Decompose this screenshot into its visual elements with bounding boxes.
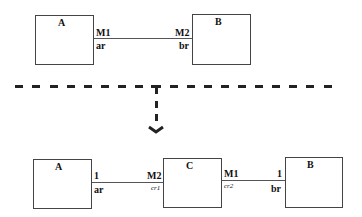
cb-right-multiplicity: 1 — [277, 169, 282, 179]
bottom-class-c-title: C — [186, 160, 193, 171]
bottom-class-box-c: C — [163, 158, 222, 208]
bottom-class-box-b: B — [285, 157, 343, 208]
cb-left-role: cr2 — [224, 183, 233, 190]
bottom-class-box-a: A — [33, 159, 92, 209]
bottom-class-b-title: B — [307, 159, 314, 170]
bottom-association-line-cb — [222, 180, 285, 181]
ac-left-role: ar — [94, 185, 103, 195]
bottom-association-line-ac — [92, 182, 163, 183]
ac-right-multiplicity: M2 — [147, 171, 161, 181]
ac-left-multiplicity: 1 — [94, 171, 99, 181]
cb-left-multiplicity: M1 — [224, 169, 238, 179]
ac-right-role: cr1 — [151, 185, 160, 192]
cb-right-role: br — [271, 184, 281, 194]
bottom-class-a-title: A — [55, 161, 62, 172]
